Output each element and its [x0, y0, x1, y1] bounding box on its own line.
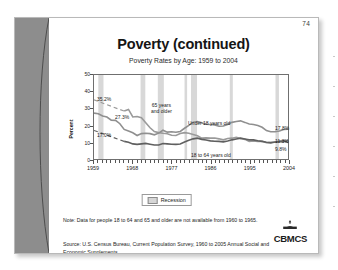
x-tick-mark: [110, 160, 111, 163]
x-tick-mark: [171, 160, 172, 164]
x-tick-mark: [141, 160, 142, 163]
recession-swatch-icon: [147, 197, 157, 204]
x-tick-label: 1995: [244, 165, 256, 171]
x-tick-mark: [150, 160, 151, 163]
x-tick-mark: [154, 160, 155, 163]
x-tick-label: 2004: [283, 165, 295, 171]
slide-left-decoration: [15, 18, 49, 253]
series-value-label: 27.3%: [115, 114, 129, 120]
x-tick-mark: [163, 160, 164, 163]
x-tick-mark: [272, 160, 273, 163]
chart-source: Source: U.S. Census Bureau, Current Popu…: [63, 240, 278, 254]
chart-subtitle: Poverty Rates by Age: 1959 to 2004: [49, 57, 318, 64]
x-tick-mark: [158, 160, 159, 163]
x-tick-mark: [224, 160, 225, 163]
x-tick-mark: [280, 160, 281, 163]
x-tick-mark: [245, 160, 246, 163]
x-tick-mark: [259, 160, 260, 163]
y-tick-mark: [90, 74, 93, 75]
left-band-curve-icon: [15, 18, 49, 253]
series-line: [124, 138, 288, 145]
recession-band: [158, 75, 164, 159]
chart-note: Note: Data for people 18 to 64 and 65 an…: [63, 216, 273, 224]
x-tick-label: 1977: [165, 165, 177, 171]
x-tick-mark: [102, 160, 103, 163]
x-tick-mark: [93, 160, 94, 164]
series-value-label: 11.3%: [275, 138, 289, 144]
recession-band: [230, 75, 233, 159]
x-tick-mark: [263, 160, 264, 163]
recession-band: [185, 75, 188, 159]
x-tick-mark: [237, 160, 238, 163]
x-tick-mark: [184, 160, 185, 163]
x-tick-mark: [285, 160, 286, 163]
x-tick-mark: [267, 160, 268, 163]
page-edge-mark: [333, 116, 335, 117]
dome-building-icon: [282, 220, 298, 229]
y-tick-mark: [90, 126, 93, 127]
x-tick-mark: [137, 160, 138, 163]
x-tick-label: 1986: [205, 165, 217, 171]
x-tick-mark: [189, 160, 190, 163]
x-tick-mark: [145, 160, 146, 163]
x-tick-mark: [167, 160, 168, 163]
x-tick-mark: [176, 160, 177, 163]
x-tick-mark: [289, 160, 290, 164]
x-tick-label: 1968: [126, 165, 138, 171]
y-axis-label: Percent: [68, 119, 74, 138]
series-name-label: Under 18 years old: [188, 120, 230, 126]
page-edge-mark: [333, 56, 335, 57]
x-tick-mark: [193, 160, 194, 163]
x-tick-mark: [123, 160, 124, 163]
x-tick-mark: [132, 160, 133, 164]
page-edge-mark: [333, 86, 335, 87]
series-name-label: 18 to 64 years old: [191, 152, 231, 158]
x-tick-mark: [250, 160, 251, 164]
y-tick-mark: [90, 108, 93, 109]
legend-item-label: Recession: [161, 197, 186, 203]
presentation-slide: 74 Poverty (continued) Poverty Rates by …: [14, 17, 319, 254]
page-edge-mark: [333, 146, 335, 147]
recession-band: [98, 75, 103, 159]
poverty-rate-chart: Percent 01020304050 19591968197719861995…: [63, 70, 307, 188]
x-tick-mark: [206, 160, 207, 163]
chart-legend: Recession: [141, 194, 192, 206]
x-tick-mark: [119, 160, 120, 163]
recession-band: [191, 75, 197, 159]
x-tick-mark: [211, 160, 212, 164]
x-tick-mark: [128, 160, 129, 163]
x-tick-mark: [215, 160, 216, 163]
slide-page-number: 74: [302, 20, 310, 27]
series-value-label: 35.2%: [97, 96, 111, 102]
screenshot-root: 74 Poverty (continued) Poverty Rates by …: [0, 0, 338, 270]
x-tick-mark: [198, 160, 199, 163]
x-tick-mark: [241, 160, 242, 163]
series-value-label: 17.8%: [275, 125, 289, 131]
x-tick-mark: [180, 160, 181, 163]
x-tick-mark: [106, 160, 107, 163]
x-tick-mark: [228, 160, 229, 163]
page-title: Poverty (continued): [49, 36, 318, 52]
x-tick-mark: [202, 160, 203, 163]
series-name-label: 65 years and older: [151, 102, 172, 115]
page-edge-mark: [333, 176, 335, 177]
organization-logo: CBMCS: [274, 220, 307, 246]
series-value-label: 17.0%: [97, 132, 111, 138]
logo-text: CBMCS: [274, 233, 307, 244]
x-tick-mark: [232, 160, 233, 163]
x-tick-mark: [276, 160, 277, 163]
x-tick-mark: [115, 160, 116, 163]
x-tick-mark: [97, 160, 98, 163]
page-edge-mark: [333, 206, 335, 207]
y-tick-mark: [90, 143, 93, 144]
y-tick-mark: [90, 91, 93, 92]
x-tick-mark: [254, 160, 255, 163]
x-tick-label: 1959: [87, 165, 99, 171]
series-value-label: 9.8%: [275, 146, 286, 152]
x-tick-mark: [219, 160, 220, 163]
